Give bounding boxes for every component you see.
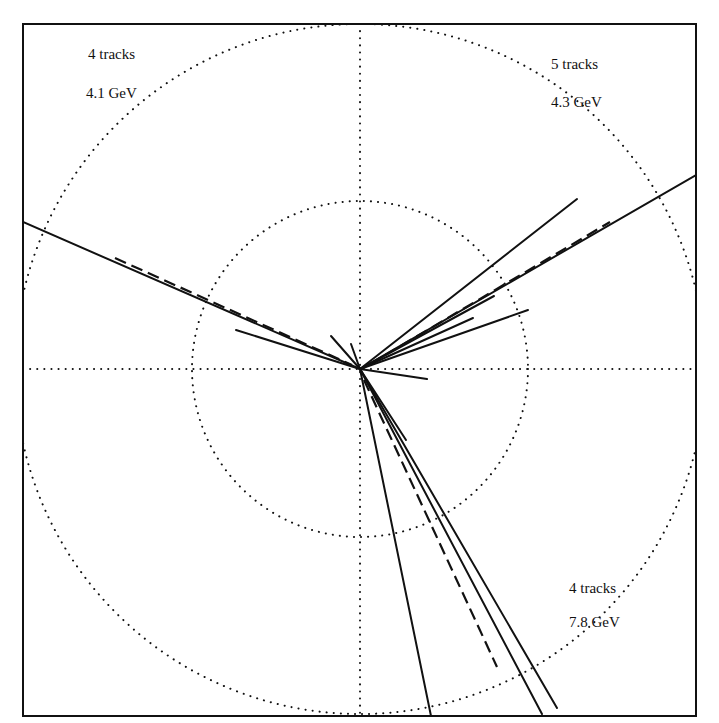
jet-upper-right-track-1 (360, 199, 577, 369)
jet-upper-right-tracks-label: 5 tracks (551, 57, 598, 72)
jet-lower (360, 369, 557, 716)
jet-lower-energy-label: 7.8 GeV (569, 615, 620, 630)
jet-lower-tracks-label: 4 tracks (569, 581, 616, 596)
jet-upper-left-energy-label: 4.1 GeV (86, 86, 137, 101)
jet-lower-axis-dashed (364, 380, 497, 667)
jet-upper-left-track-2 (236, 330, 360, 369)
jet-upper-right (360, 175, 696, 379)
jet-upper-right-track-6 (360, 369, 427, 379)
jet-lower-track-2 (360, 369, 542, 714)
jet-upper-left-axis-dashed (115, 258, 352, 365)
jet-upper-left-track-1 (23, 222, 360, 369)
jet-upper-right-energy-label: 4.3 GeV (551, 95, 602, 110)
jet-upper-left-tracks-label: 4 tracks (88, 47, 135, 62)
jet-upper-right-track-5 (360, 310, 528, 369)
jet-lower-track-3 (360, 369, 557, 708)
jet-upper-left (23, 222, 360, 369)
jet-lower-track-1 (360, 369, 431, 716)
